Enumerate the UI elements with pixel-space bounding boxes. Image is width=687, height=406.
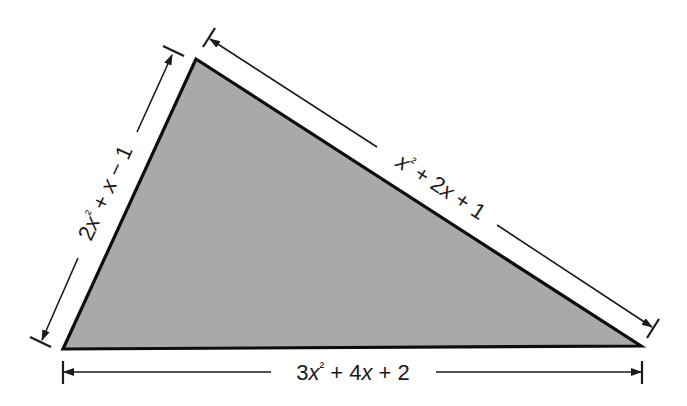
bottom-side-dimension: 3x² + 4x + 2 <box>63 359 642 385</box>
hyp-dim-top-tick <box>203 28 215 47</box>
left-dim-bottom-tick <box>30 337 51 347</box>
left-dim-top-tick <box>163 46 184 56</box>
bottom-side-label: 3x² + 4x + 2 <box>296 359 410 385</box>
hyp-dim-bottom-tick <box>647 319 659 338</box>
triangle-diagram: 2x² + x − 1 x² + 2x + 1 3x² + 4x + 2 <box>0 0 687 406</box>
